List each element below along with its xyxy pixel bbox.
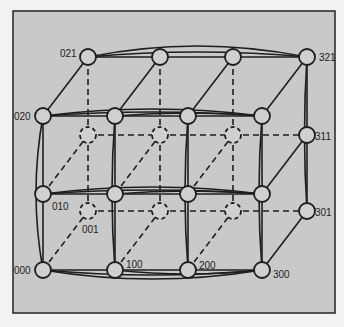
label-021: 021 <box>60 48 77 59</box>
label-200: 200 <box>199 260 216 271</box>
node-220 <box>180 108 196 124</box>
node-300 <box>254 262 270 278</box>
label-321: 321 <box>319 52 336 63</box>
label-010: 010 <box>52 201 69 212</box>
node-221 <box>225 49 241 65</box>
node-200 <box>180 262 196 278</box>
node-020 <box>35 108 51 124</box>
label-311: 311 <box>315 131 331 142</box>
node-000 <box>35 262 51 278</box>
node-100 <box>107 262 123 278</box>
node-310 <box>254 186 270 202</box>
torus-diagram: 000 010 020 021 001 100 200 300 301 311 … <box>0 0 344 327</box>
node-010 <box>35 186 51 202</box>
node-101 <box>152 203 168 219</box>
label-100: 100 <box>126 259 143 270</box>
label-001: 001 <box>82 224 99 235</box>
label-300: 300 <box>273 269 290 280</box>
node-111 <box>152 127 168 143</box>
label-020: 020 <box>14 111 31 122</box>
node-211 <box>225 127 241 143</box>
node-120 <box>107 108 123 124</box>
label-301: 301 <box>315 207 332 218</box>
node-110 <box>107 186 123 202</box>
node-011 <box>80 127 96 143</box>
node-321 <box>299 49 315 65</box>
node-001 <box>80 203 96 219</box>
node-201 <box>225 203 241 219</box>
node-021 <box>80 49 96 65</box>
node-311 <box>299 127 315 143</box>
node-210 <box>180 186 196 202</box>
node-121 <box>152 49 168 65</box>
node-320 <box>254 108 270 124</box>
label-000: 000 <box>14 265 31 276</box>
node-301 <box>299 203 315 219</box>
